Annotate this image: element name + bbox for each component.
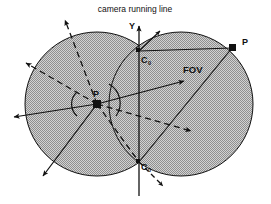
c0-top-label: C xyxy=(141,55,148,65)
right-circle xyxy=(109,32,253,176)
point-right-label: P xyxy=(242,37,248,47)
c0-top-subscript: 0 xyxy=(148,60,151,66)
diagram-canvas: camera running line Y FOV P P C 0 C 0 xyxy=(0,0,271,204)
y-axis-label: Y xyxy=(129,21,135,31)
diagram-figure: camera running line Y FOV P P C 0 C 0 xyxy=(0,0,271,204)
fov-label: FOV xyxy=(183,64,203,75)
node-dot-icon-center xyxy=(93,100,101,108)
c0-bottom-label: C xyxy=(141,162,148,172)
node-dot-icon-c0-bottom xyxy=(136,159,140,163)
node-dot-icon-right xyxy=(229,44,236,51)
point-center-label: P xyxy=(93,89,99,99)
node-dot-icon-c0-top xyxy=(136,48,140,52)
c0-bottom-subscript: 0 xyxy=(148,167,151,173)
diagram-title: camera running line xyxy=(98,4,173,14)
